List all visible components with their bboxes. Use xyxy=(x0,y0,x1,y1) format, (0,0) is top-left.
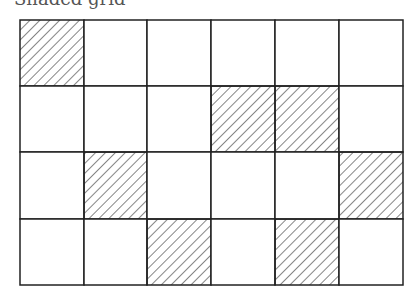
blank-cell xyxy=(211,20,275,86)
shaded-cell xyxy=(275,86,339,152)
blank-cell xyxy=(84,86,147,152)
shaded-cell xyxy=(147,219,211,285)
blank-cell xyxy=(275,152,339,219)
shaded-cell xyxy=(84,152,147,219)
shaded-cell xyxy=(339,152,403,219)
shaded-grid-diagram xyxy=(0,0,418,303)
blank-cell xyxy=(84,20,147,86)
shaded-cell xyxy=(275,219,339,285)
blank-cell xyxy=(84,219,147,285)
blank-cell xyxy=(147,152,211,219)
blank-cell xyxy=(339,219,403,285)
shaded-cell xyxy=(211,86,275,152)
blank-cell xyxy=(211,152,275,219)
blank-cell xyxy=(20,219,84,285)
blank-cell xyxy=(275,20,339,86)
shaded-cell xyxy=(20,20,84,86)
blank-cell xyxy=(20,152,84,219)
blank-cell xyxy=(20,86,84,152)
blank-cell xyxy=(147,86,211,152)
blank-cell xyxy=(211,219,275,285)
blank-cell xyxy=(339,86,403,152)
blank-cell xyxy=(147,20,211,86)
blank-cell xyxy=(339,20,403,86)
